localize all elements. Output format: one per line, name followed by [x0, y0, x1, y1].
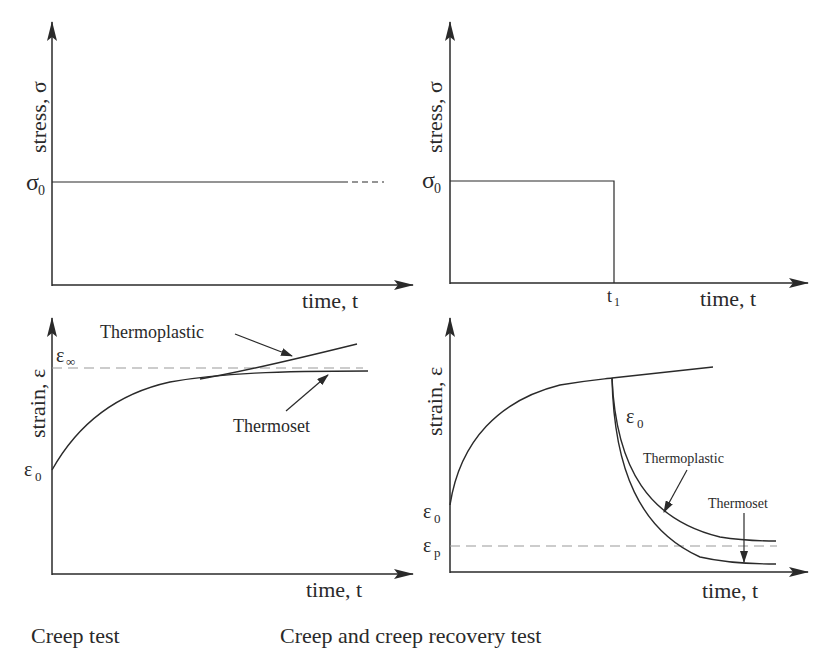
epsilon0-drop-sub: 0: [637, 416, 644, 431]
y-axis-label: stress, σ: [422, 81, 447, 153]
continued-creep: [612, 367, 713, 378]
sigma0-sub: 0: [38, 183, 45, 198]
x-axis-label: time, t: [302, 288, 358, 313]
thermoset-label: Thermoset: [233, 416, 310, 436]
epsilon0-sub: 0: [35, 469, 42, 484]
y-axis-label: strain, ε: [422, 367, 447, 436]
thermoplastic-label: Thermoplastic: [643, 451, 724, 466]
creep-curve: [450, 378, 612, 505]
t1-label: t: [607, 286, 612, 306]
thermoplastic-label: Thermoplastic: [100, 322, 204, 342]
creep-strain-panel: Thermoplastic Thermoset strain, ε time, …: [24, 318, 413, 602]
t1-sub: 1: [614, 295, 620, 309]
y-axis-label: stress, σ: [26, 81, 51, 153]
thermoset-arrow: [286, 375, 328, 411]
caption-creep-recovery-test: Creep and creep recovery test: [280, 623, 541, 649]
recovery-stress-panel: stress, σ time, t σ 0 t 1: [422, 22, 808, 311]
epsilon-inf-sub: ∞: [66, 354, 75, 369]
epsilon0-drop-label: ε: [626, 405, 634, 427]
creep-stress-panel: stress, σ time, t σ 0: [26, 22, 413, 313]
thermoset-curve: [52, 371, 368, 470]
thermoplastic-curve: [200, 344, 357, 379]
stress-step: [450, 181, 614, 283]
y-axis-label: strain, ε: [25, 369, 50, 438]
thermoset-label: Thermoset: [708, 496, 768, 511]
recovery-strain-panel: Thermoplastic Thermoset strain, ε time, …: [422, 318, 808, 603]
thermoplastic-arrow: [235, 334, 292, 356]
caption-creep-test: Creep test: [31, 623, 120, 649]
epsilon-p-label: ε: [423, 534, 431, 556]
epsilon-p-sub: p: [434, 545, 441, 560]
epsilon-inf-label: ε: [56, 344, 64, 366]
x-axis-label: time, t: [702, 578, 758, 603]
sigma0-sub: 0: [434, 181, 441, 196]
epsilon0-sub: 0: [434, 511, 441, 526]
x-axis-label: time, t: [700, 286, 756, 311]
epsilon0-label: ε: [24, 458, 32, 480]
creep-diagram: stress, σ time, t σ 0 stress, σ time, t …: [0, 0, 829, 671]
thermoplastic-arrow: [664, 470, 687, 512]
x-axis-label: time, t: [306, 577, 362, 602]
thermoset-recovery: [612, 378, 776, 564]
epsilon0-label: ε: [423, 500, 431, 522]
